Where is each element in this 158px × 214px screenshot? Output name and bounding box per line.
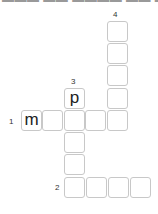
cutoff-instructions: ▬▬▬ ▬▬ ▬▬▬▬ ▬▬ ▬▬ (0, 0, 158, 4)
grid-cell-r6c2[interactable] (64, 154, 85, 175)
clue-number-2: 2 (55, 184, 59, 192)
grid-cell-r3c4[interactable] (107, 88, 128, 109)
grid-cell-r7c3[interactable] (86, 177, 107, 198)
grid-cell-r5c2[interactable] (64, 132, 85, 153)
grid-cell-r3c2[interactable]: p (64, 88, 85, 109)
grid-cell-r4c3[interactable] (85, 110, 106, 131)
grid-cell-r7c5[interactable] (130, 177, 151, 198)
grid-cell-r1c4[interactable] (107, 43, 128, 64)
cell-letter: p (70, 89, 79, 106)
grid-cell-r4c0[interactable]: m (21, 110, 42, 131)
clue-number-3: 3 (71, 78, 75, 86)
cutoff-text: ▬▬▬ ▬▬ ▬▬▬▬ ▬▬ ▬▬ (2, 0, 158, 4)
clue-number-4: 4 (113, 11, 117, 19)
grid-cell-r4c1[interactable] (42, 110, 63, 131)
grid-cell-r7c4[interactable] (108, 177, 129, 198)
clue-number-1: 1 (9, 118, 13, 126)
grid-cell-r0c4[interactable] (107, 21, 128, 42)
grid-cell-r4c4[interactable] (107, 110, 128, 131)
grid-cell-r4c2[interactable] (64, 110, 85, 131)
grid-cell-r7c2[interactable] (64, 177, 85, 198)
grid-cell-r2c4[interactable] (107, 65, 128, 86)
cell-letter: m (24, 111, 38, 128)
